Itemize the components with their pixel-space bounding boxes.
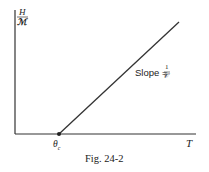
x-axis-label: T	[186, 137, 192, 149]
figure-caption: Fig. 24-2	[85, 153, 124, 164]
diagram	[0, 0, 209, 172]
y-axis-label-numerator: H	[19, 7, 26, 17]
slope-denominator: 𝒞	[163, 72, 168, 80]
x-intercept-point	[57, 132, 61, 136]
x-intercept-label: θc	[53, 139, 60, 151]
theta-subscript: c	[58, 145, 61, 151]
slope-numerator: 1	[165, 63, 169, 71]
linear-plot-line	[59, 22, 179, 134]
y-axis-label-denominator: ℳ	[17, 17, 27, 27]
